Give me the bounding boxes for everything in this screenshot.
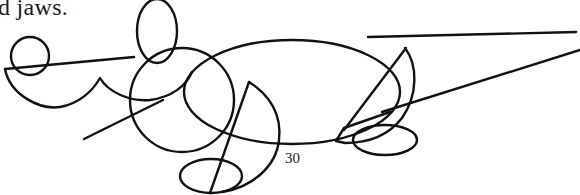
page-number: 30 xyxy=(285,150,300,167)
document-page: d jaws. 30 xyxy=(0,0,580,195)
small-ear-circle xyxy=(11,37,49,75)
tail-top-line xyxy=(368,32,576,37)
back-leg-outline xyxy=(336,48,414,143)
mouth-line xyxy=(84,100,163,139)
nose-line xyxy=(5,57,134,69)
back-foot-ellipse xyxy=(353,125,417,155)
